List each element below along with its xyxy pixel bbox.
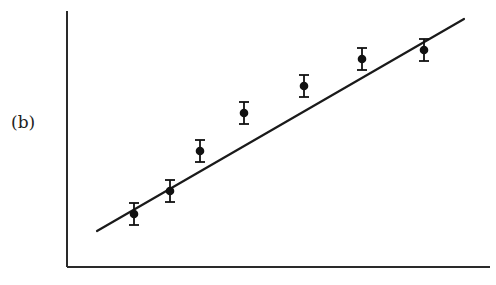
marker-dot: [130, 210, 139, 219]
marker-dot: [196, 147, 205, 156]
data-point: [165, 180, 175, 202]
data-point: [195, 140, 205, 162]
data-point: [357, 48, 367, 70]
marker-dot: [166, 187, 175, 196]
fit-line: [97, 19, 464, 231]
data-points: [129, 39, 429, 225]
marker-dot: [240, 109, 249, 118]
data-point: [299, 75, 309, 97]
marker-dot: [420, 46, 429, 55]
data-point: [129, 203, 139, 225]
marker-dot: [358, 55, 367, 64]
marker-dot: [300, 82, 309, 91]
data-point: [419, 39, 429, 61]
scatter-plot-with-fit: [0, 0, 496, 285]
linear-fit-line: [97, 19, 464, 231]
data-point: [239, 102, 249, 124]
